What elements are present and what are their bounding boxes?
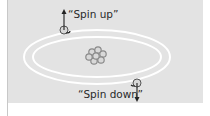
nucleus-cluster-icon: [86, 47, 106, 64]
spin-up-label: “Spin up”: [68, 8, 118, 20]
spin-down-label: “Spin down”: [78, 88, 143, 100]
